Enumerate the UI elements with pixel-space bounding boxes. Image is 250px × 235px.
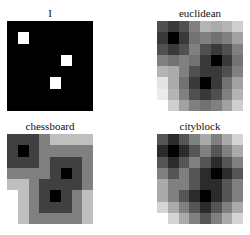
pixel-cell [179,55,190,66]
pixel-cell [50,44,61,55]
pixel-cell [179,134,190,145]
pixel-cell [18,145,29,156]
pixel-cell [82,66,93,77]
pixel-cell [39,157,50,168]
pixel-cell [61,44,72,55]
pixel-cell [72,44,83,55]
pixel-cell [39,100,50,111]
pixel-cell [232,157,243,168]
pixel-cell [157,179,168,190]
pixel-cell [189,168,200,179]
pixel-cell [50,55,61,66]
pixel-cell [200,66,211,77]
pixel-cell [211,100,222,111]
pixel-cell [222,134,233,145]
pixel-cell [72,190,83,201]
pixel-cell [72,134,83,145]
pixel-cell [168,77,179,88]
pixel-cell [179,66,190,77]
pixel-cell [61,145,72,156]
pixel-cell [39,44,50,55]
pixel-cell [18,157,29,168]
pixel-cell [61,21,72,32]
pixel-cell [7,55,18,66]
pixel-cell [232,77,243,88]
pixel-cell [7,179,18,190]
pixel-cell [82,157,93,168]
pixel-cell [61,134,72,145]
pixel-cell [168,32,179,43]
pixel-cell [189,134,200,145]
pixel-cell [7,100,18,111]
pixel-cell [168,100,179,111]
pixel-cell [200,179,211,190]
pixel-cell [39,66,50,77]
pixel-cell [61,55,72,66]
pixel-cell [157,55,168,66]
pixel-cell [211,134,222,145]
pixel-cell [168,213,179,224]
panel-title: euclidean [137,7,250,19]
pixel-cell [82,77,93,88]
pixel-cell [222,89,233,100]
pixel-cell [72,66,83,77]
pixel-cell [222,190,233,201]
pixel-cell [168,134,179,145]
pixel-cell [72,55,83,66]
pixel-cell [211,32,222,43]
pixel-cell [189,100,200,111]
pixel-cell [189,213,200,224]
pixel-cell [29,190,40,201]
pixel-cell [29,134,40,145]
pixel-cell [82,179,93,190]
pixel-cell [179,21,190,32]
pixel-cell [82,190,93,201]
pixel-cell [50,134,61,145]
pixel-cell [222,66,233,77]
pixel-cell [72,213,83,224]
pixel-cell [61,213,72,224]
pixel-cell [29,32,40,43]
pixel-cell [29,21,40,32]
pixel-cell [200,202,211,213]
pixel-cell [7,89,18,100]
pixel-cell [211,190,222,201]
pixel-cell [61,202,72,213]
pixel-cell [211,55,222,66]
pixel-cell [222,21,233,32]
pixel-cell [18,77,29,88]
pixel-cell [39,134,50,145]
pixel-cell [72,202,83,213]
pixel-cell [168,21,179,32]
pixel-cell [157,77,168,88]
pixel-cell [232,66,243,77]
pixel-cell [200,168,211,179]
pixel-cell [39,32,50,43]
pixel-cell [179,77,190,88]
pixel-cell [222,157,233,168]
pixel-cell [232,213,243,224]
pixel-cell [18,44,29,55]
pixel-cell [39,21,50,32]
pixel-cell [50,77,61,88]
pixel-cell [157,134,168,145]
pixel-cell [232,44,243,55]
pixel-cell [189,21,200,32]
pixel-cell [232,190,243,201]
pixel-cell [168,168,179,179]
pixel-cell [222,213,233,224]
pixel-cell [61,168,72,179]
pixel-cell [18,55,29,66]
pixel-cell [29,66,40,77]
pixel-cell [29,44,40,55]
pixel-cell [50,145,61,156]
pixel-cell [50,100,61,111]
pixel-cell [7,157,18,168]
pixel-cell [232,32,243,43]
image-grid [7,134,93,224]
pixel-cell [168,44,179,55]
pixel-cell [18,32,29,43]
pixel-cell [189,44,200,55]
pixel-cell [222,77,233,88]
pixel-cell [29,168,40,179]
